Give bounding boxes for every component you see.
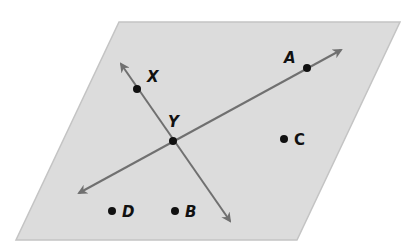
label-c: C [294,131,305,149]
point-b [171,207,179,215]
geometry-diagram: XAYCDB [0,0,405,247]
label-x: X [146,68,160,86]
point-c [280,135,288,143]
plane [16,22,400,240]
label-d: D [122,203,134,221]
label-b: B [185,203,196,221]
diagram-svg: XAYCDB [0,0,405,247]
point-a [303,64,311,72]
point-x [133,85,141,93]
point-y [169,137,177,145]
point-d [108,207,116,215]
label-a: A [283,49,296,67]
